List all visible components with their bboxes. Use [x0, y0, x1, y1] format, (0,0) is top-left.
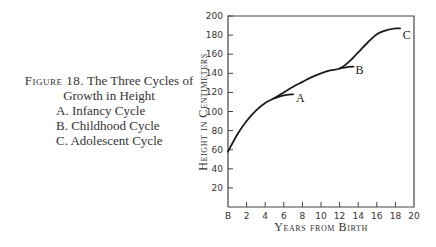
x-tick-label: 2	[244, 211, 250, 221]
x-tick-label: B	[225, 211, 231, 221]
growth-curves	[228, 28, 400, 151]
y-tick-label: 60	[212, 145, 224, 155]
y-axis-title: Height in Centimeters	[196, 53, 210, 170]
x-axis: B2468101214161820	[225, 202, 420, 221]
y-tick-label: 180	[206, 30, 223, 40]
x-tick-label: 18	[390, 211, 402, 221]
y-tick-label: 20	[212, 183, 224, 193]
x-tick-label: 16	[371, 211, 383, 221]
x-tick-label: 4	[262, 211, 268, 221]
x-tick-label: 20	[408, 211, 420, 221]
y-tick-label: 80	[212, 126, 224, 136]
label-b: B	[355, 63, 363, 77]
y-tick-label: 40	[212, 164, 224, 174]
main-growth-curve	[228, 28, 400, 151]
label-a: A	[296, 91, 305, 105]
y-tick-label: 200	[206, 11, 223, 21]
growth-chart: 20406080100120140160180200 B246810121416…	[0, 0, 436, 247]
label-c: C	[403, 28, 411, 42]
x-axis-title: Years from Birth	[274, 220, 368, 234]
